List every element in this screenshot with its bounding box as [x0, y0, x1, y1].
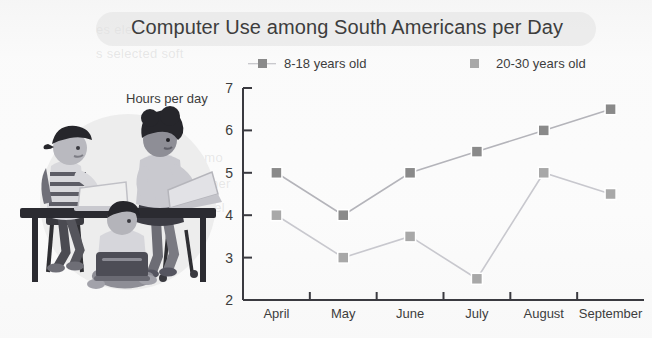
legend-item-series-2[interactable]: 20-30 years old [460, 56, 586, 71]
legend-item-series-1[interactable]: 8-18 years old [248, 56, 460, 71]
page-title: Computer Use among South Americans per D… [112, 16, 582, 39]
legend-swatch-icon [248, 58, 276, 70]
series-line-1 [276, 109, 610, 215]
y-axis-tick-label: 7 [225, 80, 233, 96]
y-axis-tick-label: 2 [225, 292, 233, 308]
data-point-marker[interactable] [471, 146, 482, 157]
x-axis-tick-label: August [524, 306, 565, 321]
x-axis-tick-label: July [465, 306, 489, 321]
y-axis-tick-label: 6 [225, 122, 233, 138]
background-artifact-text: s selected soft [96, 46, 184, 61]
data-point-marker[interactable] [338, 210, 349, 221]
data-point-marker[interactable] [338, 252, 349, 263]
y-axis-tick-label: 3 [225, 250, 233, 266]
data-point-marker[interactable] [271, 210, 282, 221]
series-markers [271, 104, 616, 285]
y-axis-tick-label: 4 [225, 207, 233, 223]
data-point-marker[interactable] [471, 273, 482, 284]
x-axis-tick-label: September [579, 306, 643, 321]
series-lines [276, 109, 610, 279]
data-point-marker[interactable] [605, 104, 616, 115]
x-axis-tick-label: April [263, 306, 289, 321]
x-axis-tick-label: June [396, 306, 424, 321]
x-axis-ticks [310, 292, 577, 300]
data-point-marker[interactable] [405, 167, 416, 178]
data-point-marker[interactable] [538, 167, 549, 178]
series-line-2 [276, 173, 610, 279]
data-point-marker[interactable] [405, 231, 416, 242]
illustration-three-people-using-laptops [18, 104, 224, 310]
data-point-marker[interactable] [605, 189, 616, 200]
x-axis-tick-label: May [331, 306, 356, 321]
legend-label-series-1: 8-18 years old [284, 56, 366, 71]
y-axis-ticks: 234567 [225, 80, 252, 308]
chart-legend: 8-18 years old 20-30 years old [248, 56, 608, 71]
x-axis-tick-labels: AprilMayJuneJulyAugustSeptember [263, 306, 643, 321]
chart-page: es ele de s selected soft como poner es … [0, 0, 652, 338]
data-point-marker[interactable] [271, 167, 282, 178]
y-axis-tick-label: 5 [225, 165, 233, 181]
data-point-marker[interactable] [538, 125, 549, 136]
legend-label-series-2: 20-30 years old [496, 56, 586, 71]
legend-swatch-icon [460, 58, 488, 70]
y-axis-label: Hours per day [126, 91, 208, 106]
